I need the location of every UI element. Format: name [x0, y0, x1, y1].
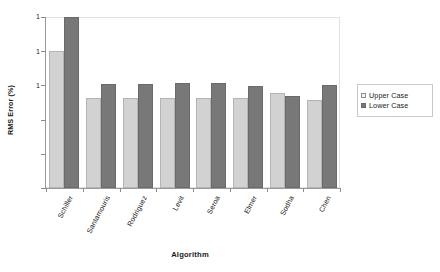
y-axis-tick-label: 1 — [36, 82, 40, 89]
x-axis-tick — [83, 188, 84, 192]
bar-lower-case[interactable] — [211, 83, 226, 188]
x-axis-tick — [120, 188, 121, 192]
bar-lower-case[interactable] — [101, 84, 116, 188]
bar-group — [86, 17, 116, 188]
bar-upper-case[interactable] — [49, 51, 64, 188]
bar-group — [233, 17, 263, 188]
bar-lower-case[interactable] — [175, 83, 190, 188]
bar-upper-case[interactable] — [160, 98, 175, 188]
x-axis-tick — [267, 188, 268, 192]
bar-upper-case[interactable] — [307, 100, 322, 188]
bar-upper-case[interactable] — [233, 98, 248, 188]
bar-chart: RMS Error (%) 111 SchillerSantamourisRod… — [0, 0, 440, 272]
bar-group — [270, 17, 300, 188]
legend-item-upper-case[interactable]: Upper Case — [361, 91, 428, 100]
legend-label-upper-case: Upper Case — [369, 91, 408, 100]
bar-lower-case[interactable] — [248, 86, 263, 188]
x-axis-tick — [156, 188, 157, 192]
bar-group — [196, 17, 226, 188]
x-axis-title: Algorithm — [0, 250, 380, 259]
bar-upper-case[interactable] — [86, 98, 101, 188]
bar-group — [160, 17, 190, 188]
x-axis-tick — [340, 188, 341, 192]
y-axis-tick-label: 1 — [36, 13, 40, 20]
legend: Upper Case Lower Case — [357, 84, 433, 117]
bar-series-container — [46, 17, 340, 188]
x-axis-tick — [46, 188, 47, 192]
bar-group — [49, 17, 79, 188]
x-axis-tick — [193, 188, 194, 192]
bar-lower-case[interactable] — [64, 17, 79, 188]
legend-item-lower-case[interactable]: Lower Case — [361, 101, 428, 110]
legend-swatch-lower-case-icon — [361, 103, 366, 108]
bar-lower-case[interactable] — [322, 85, 337, 188]
bar-upper-case[interactable] — [123, 98, 138, 188]
x-axis-tick — [303, 188, 304, 192]
x-axis-tick — [230, 188, 231, 192]
legend-label-lower-case: Lower Case — [369, 101, 408, 110]
bar-upper-case[interactable] — [270, 93, 285, 188]
y-axis-tick-label: 1 — [36, 48, 40, 55]
bar-upper-case[interactable] — [196, 98, 211, 188]
bar-lower-case[interactable] — [138, 84, 153, 188]
y-axis-title: RMS Error (%) — [6, 50, 15, 170]
legend-swatch-upper-case-icon — [361, 93, 366, 98]
bar-group — [307, 17, 337, 188]
